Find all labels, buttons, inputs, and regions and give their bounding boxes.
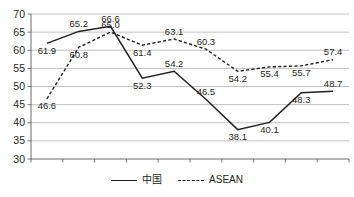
data-label: 46.5 bbox=[197, 86, 216, 97]
x-tick-label: 2010 bbox=[68, 163, 89, 166]
y-tick-label: 50 bbox=[13, 80, 25, 92]
data-label: 61.9 bbox=[38, 45, 57, 56]
x-tick-label: 2009 bbox=[36, 163, 57, 166]
data-label: 52.3 bbox=[133, 80, 152, 91]
y-tick-label: 40 bbox=[13, 116, 25, 128]
data-label: 65.0 bbox=[101, 19, 120, 30]
series-lines bbox=[47, 26, 333, 129]
data-label: 55.4 bbox=[260, 68, 279, 79]
legend-label-china: 中国 bbox=[142, 175, 162, 185]
series-line-asean bbox=[47, 32, 333, 99]
legend-swatch-dashed-icon bbox=[178, 180, 204, 181]
x-tick-label: 2011 bbox=[100, 163, 120, 166]
plot-area: 303540455055606570 200920102011201220132… bbox=[0, 0, 354, 166]
x-tick-label: 2017 bbox=[291, 163, 312, 166]
x-tick-label: 2018 bbox=[323, 163, 344, 166]
y-axis: 303540455055606570 bbox=[13, 8, 31, 165]
y-tick-label: 45 bbox=[13, 98, 25, 110]
data-label: 65.2 bbox=[69, 18, 88, 29]
y-tick-label: 65 bbox=[13, 26, 25, 38]
x-tick-label: 2014 bbox=[195, 163, 216, 166]
x-axis: 2009201020112012201320142015201620172018 bbox=[31, 159, 349, 166]
data-label: 48.3 bbox=[292, 94, 311, 105]
y-tick-label: 55 bbox=[13, 62, 25, 74]
chart-svg: 303540455055606570 200920102011201220132… bbox=[0, 0, 354, 166]
legend-swatch-solid-icon bbox=[111, 180, 137, 181]
legend-item-china: 中国 bbox=[111, 175, 162, 185]
x-tick-label: 2016 bbox=[259, 163, 280, 166]
data-label: 61.4 bbox=[133, 47, 152, 58]
y-tick-label: 70 bbox=[13, 8, 25, 20]
legend-item-asean: ASEAN bbox=[178, 175, 243, 185]
x-tick-label: 2015 bbox=[227, 163, 248, 166]
x-tick-label: 2012 bbox=[132, 163, 153, 166]
y-tick-label: 35 bbox=[13, 134, 25, 146]
data-label: 55.7 bbox=[292, 67, 311, 78]
x-tick-label: 2013 bbox=[164, 163, 185, 166]
data-label: 38.1 bbox=[228, 131, 247, 142]
data-label: 57.4 bbox=[324, 46, 343, 57]
line-chart: 303540455055606570 200920102011201220132… bbox=[0, 0, 354, 197]
data-label: 48.7 bbox=[324, 78, 343, 89]
data-label: 60.8 bbox=[69, 49, 88, 60]
data-label: 54.2 bbox=[165, 58, 184, 69]
y-tick-label: 60 bbox=[13, 44, 25, 56]
data-label: 54.2 bbox=[228, 73, 247, 84]
data-label: 40.1 bbox=[260, 124, 279, 135]
data-label: 46.6 bbox=[38, 100, 57, 111]
chart-legend: 中国 ASEAN bbox=[0, 170, 354, 197]
data-label: 63.1 bbox=[165, 26, 184, 37]
legend-label-asean: ASEAN bbox=[209, 175, 243, 185]
y-tick-label: 30 bbox=[13, 153, 25, 165]
data-label: 60.3 bbox=[197, 36, 216, 47]
